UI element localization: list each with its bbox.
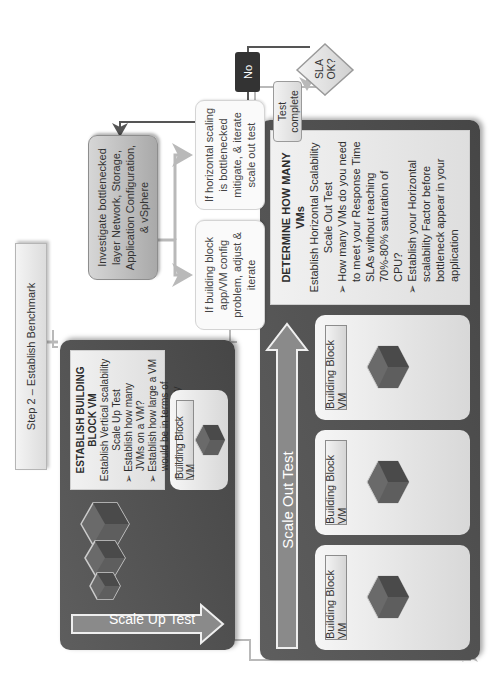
test-complete-box: Test complete — [273, 81, 302, 142]
scale-up-subtitle: Establish Vertical scalability — [99, 357, 111, 483]
scalability-test-flowchart: Step 2 – Establish Benchmark Scale Up Te… — [0, 0, 499, 687]
scale-out-bullet-2: ➢ Establish your Horizontal scalability … — [405, 141, 461, 294]
sla-decision-label: SLA OK? — [313, 49, 337, 89]
scale-up-arrow-label: Scale Up Test — [109, 611, 195, 627]
scale-out-building-block-card-2: Building Block VM — [315, 430, 470, 535]
scale-out-panel: Scale Out Test Building Block VM Buildin… — [260, 120, 480, 660]
scale-out-test-name: Scale Out Test — [321, 141, 335, 294]
step-label: Step 2 – Establish Benchmark — [15, 243, 47, 470]
vm-cube-icon — [194, 423, 226, 457]
scale-out-description: DETERMINE HOW MANY VMs Establish Horizon… — [270, 130, 470, 305]
vm-cube-icon — [365, 459, 411, 505]
horizontal-remediation-box: If horizontal scaling is bottlenecked mi… — [195, 100, 265, 210]
scale-up-test-name: Scale Up Test — [111, 357, 123, 483]
vm-cube-icon — [365, 574, 411, 620]
building-block-label: Building Block VM — [325, 555, 347, 640]
scale-up-arrow: Scale Up Test — [70, 603, 225, 645]
scale-up-bullet-1: ➢ Establish how many JVMs on a VM? — [123, 357, 147, 483]
scale-out-building-block-card-3: Building Block VM — [315, 315, 470, 420]
vm-cube-icon — [365, 344, 411, 390]
building-block-remediation-box: If building block app/VM config problem,… — [195, 220, 265, 330]
scale-out-building-block-card-1: Building Block VM — [315, 545, 470, 650]
no-branch-badge: No — [235, 52, 260, 92]
stacked-cubes — [70, 492, 140, 602]
scale-out-arrow: Scale Out Test — [265, 320, 310, 650]
scale-up-building-block-card: Building Block VM — [170, 390, 228, 490]
scale-out-title: DETERMINE HOW MANY VMs — [279, 141, 307, 294]
scale-out-bullet-1: ➢ How many VMs do you need to meet your … — [335, 141, 405, 294]
scale-up-description: ESTABLISH BUILDING BLOCK VM Establish Ve… — [70, 350, 165, 490]
building-block-label: Building Block VM — [176, 400, 194, 480]
building-block-label: Building Block VM — [325, 440, 347, 525]
scale-out-arrow-label: Scale Out Test — [279, 451, 296, 549]
investigate-bottleneck-box: Investigate bottlenecked layer Network, … — [88, 135, 158, 280]
scale-up-title: ESTABLISH BUILDING BLOCK VM — [75, 357, 99, 483]
building-block-label: Building Block VM — [325, 325, 347, 410]
scale-up-panel: Scale Up Test ESTABLISH BUILDING BLOCK — [60, 340, 235, 650]
scale-out-subtitle: Establish Horizontal Scalability — [307, 141, 321, 294]
